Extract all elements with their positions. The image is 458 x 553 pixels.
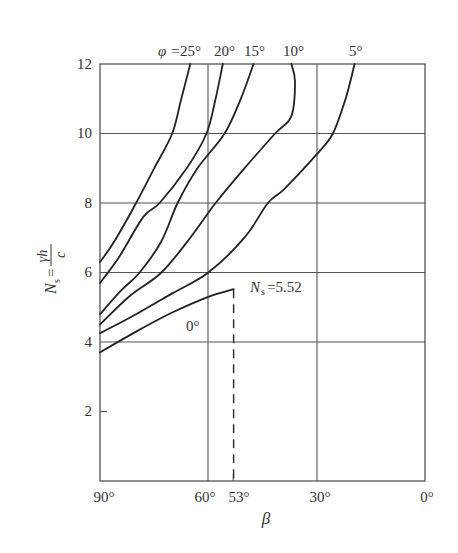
stability-number-chart: 12 10 8 6 4 2 90° 60° 53° 30° 0° β N s =… — [0, 0, 458, 553]
x-tick-0: 0° — [420, 489, 434, 505]
curve-0deg — [100, 289, 234, 352]
ns-annotation-sub: s — [261, 286, 265, 297]
x-tick-90: 90° — [94, 489, 115, 505]
gridlines — [100, 64, 425, 481]
y-tick-12: 12 — [77, 56, 92, 72]
label-phi-10: 10° — [283, 43, 304, 59]
ns-annotation: N s =5.52 — [249, 279, 302, 297]
curve-25deg — [100, 64, 190, 262]
label-phi-15: 15° — [244, 43, 265, 59]
x-tick-30: 30° — [310, 489, 331, 505]
label-phi-20: 20° — [214, 43, 235, 59]
label-phi-5: 5° — [349, 43, 363, 59]
x-tick-labels: 90° 60° 53° 30° 0° — [94, 489, 434, 505]
y-title-sub: s — [51, 279, 62, 283]
ns-annotation-value: =5.52 — [267, 279, 302, 295]
y-tick-4: 4 — [85, 334, 93, 350]
phi-prefix: φ = — [158, 43, 180, 59]
y-title-numerator: γh — [35, 250, 50, 263]
y-axis-title: N s = γh c — [35, 244, 68, 295]
y-tick-6: 6 — [85, 264, 93, 280]
label-phi-25: 25° — [180, 43, 201, 59]
y-tick-labels: 12 10 8 6 4 2 — [77, 56, 93, 419]
curve-10deg — [100, 64, 295, 325]
y-tick-10: 10 — [77, 125, 92, 141]
ns-annotation-symbol: N — [249, 279, 261, 295]
curves — [100, 64, 355, 352]
label-phi-0: 0° — [186, 318, 200, 334]
x-tick-53: 53° — [229, 489, 250, 505]
y-title-eq: = — [43, 269, 59, 277]
x-axis-title: β — [261, 509, 271, 528]
y-title-denominator: c — [53, 251, 68, 258]
curve-20deg — [100, 64, 223, 283]
curve-15deg — [100, 64, 254, 314]
y-tick-8: 8 — [85, 195, 93, 211]
x-tick-60: 60° — [195, 489, 216, 505]
y-tick-2: 2 — [85, 403, 93, 419]
